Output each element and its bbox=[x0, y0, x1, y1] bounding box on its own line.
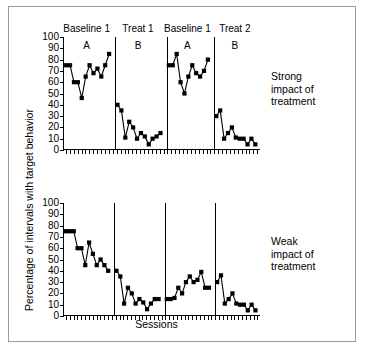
data-point-marker bbox=[95, 67, 99, 71]
data-point-marker bbox=[87, 63, 91, 67]
data-point-marker bbox=[190, 63, 194, 67]
data-point-marker bbox=[246, 308, 250, 312]
data-point-marker bbox=[87, 240, 91, 244]
data-point-marker bbox=[107, 52, 111, 56]
side-note-weak: Weak impact of treatment bbox=[271, 235, 315, 273]
data-point-marker bbox=[79, 246, 83, 250]
data-point-marker bbox=[68, 63, 72, 67]
data-point-marker bbox=[91, 71, 95, 75]
data-point-marker bbox=[223, 301, 227, 305]
side-note-strong: Strong impact of treatment bbox=[271, 70, 315, 108]
data-point-marker bbox=[123, 135, 127, 139]
y-axis-tick-label: 70 bbox=[33, 232, 59, 242]
data-point-marker bbox=[242, 137, 246, 141]
figure-frame: Percentage of intervals with target beha… bbox=[8, 6, 356, 342]
data-point-marker bbox=[106, 269, 110, 273]
y-axis-tick-label: 10 bbox=[33, 300, 59, 310]
y-axis-tick-label: 80 bbox=[33, 55, 59, 65]
data-point-marker bbox=[198, 74, 202, 78]
data-point-marker bbox=[218, 108, 222, 112]
phase-divider bbox=[165, 203, 166, 315]
data-point-marker bbox=[131, 125, 135, 129]
data-point-marker bbox=[64, 229, 68, 233]
phase-line-3 bbox=[169, 54, 208, 94]
data-point-marker bbox=[95, 263, 99, 267]
data-point-marker bbox=[203, 286, 207, 290]
phase-divider bbox=[114, 203, 115, 315]
data-point-marker bbox=[199, 270, 203, 274]
y-axis-tick-label: 100 bbox=[33, 198, 59, 208]
data-point-marker bbox=[242, 303, 246, 307]
data-point-marker bbox=[192, 280, 196, 284]
data-point-marker bbox=[195, 278, 199, 282]
data-point-marker bbox=[126, 286, 130, 290]
data-point-marker bbox=[84, 74, 88, 78]
data-point-marker bbox=[80, 96, 84, 100]
data-point-marker bbox=[118, 274, 122, 278]
y-axis-tick bbox=[60, 316, 64, 317]
data-point-marker bbox=[98, 257, 102, 261]
data-point-marker bbox=[158, 131, 162, 135]
y-axis-tick-label: 90 bbox=[33, 43, 59, 53]
data-point-marker bbox=[75, 246, 79, 250]
data-point-marker bbox=[153, 297, 157, 301]
data-point-marker bbox=[171, 63, 175, 67]
data-point-marker bbox=[151, 137, 155, 141]
data-point-marker bbox=[102, 263, 106, 267]
data-point-marker bbox=[178, 80, 182, 84]
data-point-marker bbox=[141, 300, 145, 304]
data-point-marker bbox=[202, 69, 206, 73]
data-point-marker bbox=[253, 308, 257, 312]
phase-condition-label: B bbox=[118, 40, 158, 51]
y-axis-tick-label: 60 bbox=[33, 243, 59, 253]
data-point-marker bbox=[186, 74, 190, 78]
data-point-marker bbox=[176, 286, 180, 290]
data-point-marker bbox=[249, 137, 253, 141]
phase-condition-label: A bbox=[67, 40, 107, 51]
data-point-marker bbox=[135, 137, 139, 141]
phase-divider bbox=[214, 37, 215, 149]
phase-condition-label: A bbox=[167, 40, 207, 51]
y-axis-tick-label: 80 bbox=[33, 221, 59, 231]
data-point-marker bbox=[149, 301, 153, 305]
data-point-marker bbox=[103, 63, 107, 67]
y-axis-tick-label: 20 bbox=[33, 288, 59, 298]
data-point-marker bbox=[222, 137, 226, 141]
data-point-marker bbox=[226, 131, 230, 135]
data-point-marker bbox=[219, 273, 223, 277]
data-point-marker bbox=[238, 137, 242, 141]
y-axis-tick-label: 70 bbox=[33, 66, 59, 76]
phase-divider bbox=[115, 37, 116, 149]
data-point-marker bbox=[64, 63, 68, 67]
data-series-layer bbox=[64, 37, 261, 150]
data-point-marker bbox=[72, 80, 76, 84]
data-point-marker bbox=[122, 301, 126, 305]
data-point-marker bbox=[234, 135, 238, 139]
data-point-marker bbox=[188, 274, 192, 278]
y-axis-tick-label: 10 bbox=[33, 134, 59, 144]
data-point-marker bbox=[72, 229, 76, 233]
data-point-marker bbox=[206, 58, 210, 62]
data-point-marker bbox=[99, 74, 103, 78]
y-axis-tick-label: 90 bbox=[33, 209, 59, 219]
plot-area: 0102030405060708090100 bbox=[63, 37, 260, 150]
data-point-marker bbox=[156, 297, 160, 301]
data-point-marker bbox=[137, 297, 141, 301]
data-point-marker bbox=[245, 142, 249, 146]
data-point-marker bbox=[119, 108, 123, 112]
data-point-marker bbox=[194, 71, 198, 75]
data-point-marker bbox=[184, 280, 188, 284]
data-point-marker bbox=[238, 303, 242, 307]
phase-header-label: Treat 2 bbox=[195, 23, 275, 34]
data-point-marker bbox=[130, 291, 134, 295]
data-point-marker bbox=[169, 297, 173, 301]
data-point-marker bbox=[234, 301, 238, 305]
data-point-marker bbox=[147, 142, 151, 146]
x-axis-title: Sessions bbox=[49, 318, 264, 330]
data-point-marker bbox=[68, 229, 72, 233]
data-point-marker bbox=[154, 134, 158, 138]
y-axis-tick-label: 40 bbox=[33, 100, 59, 110]
data-point-marker bbox=[143, 134, 147, 138]
y-axis-tick-label: 30 bbox=[33, 111, 59, 121]
data-point-marker bbox=[83, 263, 87, 267]
